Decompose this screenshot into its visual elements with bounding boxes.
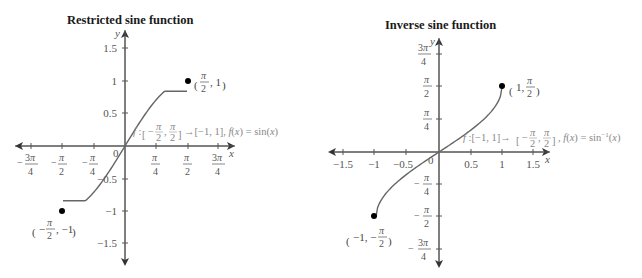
svg-text:0.5: 0.5 bbox=[464, 158, 478, 170]
function-annotation: f :[−1, 1]→ [ − π 2 , π 2 ] , f(x) = sin… bbox=[463, 127, 621, 149]
svg-text:−: − bbox=[414, 178, 420, 189]
svg-text:2: 2 bbox=[201, 83, 206, 94]
svg-text:−: − bbox=[17, 157, 23, 168]
svg-text:): ) bbox=[72, 226, 76, 239]
svg-text:−: − bbox=[39, 223, 45, 235]
svg-text:4: 4 bbox=[153, 166, 158, 177]
svg-text:π: π bbox=[59, 152, 65, 163]
svg-text:(: ( bbox=[32, 226, 36, 239]
svg-text:2: 2 bbox=[156, 132, 161, 143]
chart-title-restricted-sine: Restricted sine function bbox=[67, 13, 193, 27]
x-axis-label: x bbox=[228, 147, 234, 159]
svg-text:2: 2 bbox=[170, 132, 175, 143]
svg-text:(: ( bbox=[194, 79, 198, 92]
svg-text:−1.5: −1.5 bbox=[97, 237, 117, 249]
svg-text:,: , bbox=[538, 132, 541, 143]
svg-text:(: ( bbox=[346, 235, 350, 248]
svg-text:2: 2 bbox=[530, 138, 535, 149]
svg-text:−1: −1 bbox=[105, 205, 117, 217]
svg-text:π: π bbox=[530, 127, 536, 138]
svg-text:4: 4 bbox=[28, 166, 33, 177]
inverse-sine-chart: Inverse sine function x y 0 −1.5 −1 −0.5… bbox=[330, 18, 621, 266]
svg-text:4: 4 bbox=[90, 166, 95, 177]
svg-text:): ) bbox=[222, 79, 226, 92]
svg-text:π: π bbox=[156, 121, 162, 132]
svg-text:f :: f : bbox=[133, 126, 142, 137]
svg-text:f :[−1, 1]→: f :[−1, 1]→ bbox=[463, 132, 511, 143]
svg-text:π: π bbox=[424, 172, 430, 183]
svg-text:3π: 3π bbox=[418, 42, 429, 53]
svg-text:2: 2 bbox=[424, 218, 429, 229]
svg-text:2: 2 bbox=[544, 138, 549, 149]
svg-text:4: 4 bbox=[421, 56, 426, 67]
svg-text:π: π bbox=[544, 127, 550, 138]
endpoint-bottom bbox=[371, 213, 377, 219]
svg-text:2: 2 bbox=[185, 166, 190, 177]
svg-text:π: π bbox=[424, 107, 430, 118]
svg-text:2: 2 bbox=[59, 166, 64, 177]
svg-text:−: − bbox=[148, 126, 154, 137]
svg-text:π: π bbox=[201, 70, 207, 81]
svg-text:1.5: 1.5 bbox=[526, 158, 540, 170]
x-tick-labels: −1.5 −1 −0.5 0.5 1 1.5 bbox=[333, 158, 540, 170]
svg-text:−: − bbox=[414, 210, 420, 221]
svg-text:4: 4 bbox=[421, 251, 426, 262]
svg-text:, −1: , −1 bbox=[56, 223, 73, 235]
point-label-top: ( π 2 , 1 ) bbox=[194, 70, 226, 94]
svg-text:π: π bbox=[47, 217, 53, 228]
y-axis-label: y bbox=[114, 27, 120, 39]
svg-text:(: ( bbox=[509, 85, 513, 98]
svg-text:1,: 1, bbox=[516, 81, 525, 93]
svg-text:π: π bbox=[424, 204, 430, 215]
svg-text:π: π bbox=[527, 75, 533, 86]
svg-text:−: − bbox=[408, 243, 414, 254]
svg-text:−: − bbox=[51, 157, 57, 168]
endpoint-bottom bbox=[59, 208, 65, 214]
svg-text:0.5: 0.5 bbox=[103, 107, 117, 119]
svg-text:2: 2 bbox=[47, 230, 52, 241]
function-annotation: f : [ − π 2 , π 2 ] →[−1, 1], f(x) = sin… bbox=[133, 121, 279, 143]
svg-text:[: [ bbox=[142, 129, 146, 140]
svg-text:2: 2 bbox=[527, 88, 532, 99]
point-label-bottom: ( − π 2 , −1 ) bbox=[32, 217, 76, 241]
svg-text:, 1: , 1 bbox=[210, 76, 221, 88]
svg-text:−: − bbox=[522, 132, 528, 143]
svg-text:π: π bbox=[90, 152, 96, 163]
x-tick-labels: − 3π 4 − π 2 − π 4 π 4 π 2 3π 4 bbox=[17, 152, 225, 177]
svg-text:,: , bbox=[164, 126, 167, 137]
svg-text:2: 2 bbox=[379, 238, 384, 249]
svg-text:1: 1 bbox=[112, 75, 118, 87]
y-axis-label: y bbox=[429, 35, 435, 47]
svg-text:, f(x) = sin−1(x): , f(x) = sin−1(x) bbox=[558, 131, 621, 144]
svg-text:→[−1, 1], f(x) = sin(x): →[−1, 1], f(x) = sin(x) bbox=[184, 126, 279, 138]
svg-text:[: [ bbox=[516, 135, 520, 146]
svg-text:): ) bbox=[388, 235, 392, 248]
svg-text:3π: 3π bbox=[418, 237, 429, 248]
svg-text:−1.5: −1.5 bbox=[333, 158, 353, 170]
svg-text:]: ] bbox=[178, 129, 182, 140]
endpoint-top bbox=[185, 78, 191, 84]
chart-title-inverse-sine: Inverse sine function bbox=[385, 18, 496, 32]
svg-text:π: π bbox=[379, 225, 385, 236]
svg-text:3π: 3π bbox=[212, 152, 223, 163]
x-axis-label: x bbox=[544, 153, 550, 165]
svg-text:1: 1 bbox=[499, 158, 505, 170]
svg-text:4: 4 bbox=[424, 186, 429, 197]
svg-text:): ) bbox=[536, 85, 540, 98]
svg-text:−0.5: −0.5 bbox=[393, 158, 413, 170]
svg-text:−1: −1 bbox=[368, 158, 380, 170]
svg-text:π: π bbox=[152, 152, 158, 163]
svg-text:3π: 3π bbox=[25, 152, 36, 163]
svg-text:1.5: 1.5 bbox=[103, 42, 117, 54]
point-label-bottom: ( −1, − π 2 ) bbox=[346, 225, 392, 249]
chart-canvas: Restricted sine function x y 0 − 3π 4 − … bbox=[0, 0, 642, 278]
svg-text:−1, −: −1, − bbox=[353, 231, 376, 243]
endpoint-top bbox=[499, 83, 505, 89]
restricted-sine-chart: Restricted sine function x y 0 − 3π 4 − … bbox=[15, 13, 279, 264]
svg-text:−: − bbox=[82, 157, 88, 168]
svg-text:]: ] bbox=[552, 135, 556, 146]
svg-text:2: 2 bbox=[424, 88, 429, 99]
svg-text:π: π bbox=[424, 74, 430, 85]
svg-text:π: π bbox=[170, 121, 176, 132]
svg-text:π: π bbox=[184, 152, 190, 163]
